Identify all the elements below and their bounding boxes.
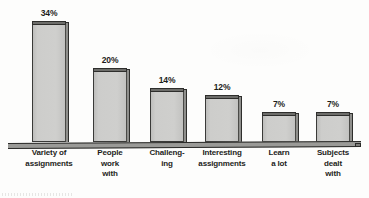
category-label-line: with: [296, 169, 369, 180]
axis-baseline-endcap: [355, 143, 361, 147]
category-label: Subjectsdealtwith: [296, 148, 369, 180]
bar-value-label: 34%: [32, 9, 66, 18]
bar-top-face: [32, 21, 66, 25]
bar-side-face: [350, 113, 353, 142]
bar: 7%: [316, 105, 350, 142]
bar-value-label: 20%: [93, 56, 127, 65]
scan-smudge: [200, 30, 320, 70]
bar-value-label: 7%: [316, 100, 350, 109]
category-label-line: Subjects: [296, 148, 369, 159]
category-label-line: with: [73, 169, 147, 180]
bar: 20%: [93, 61, 127, 142]
bar-chart: 34%20%14%12%7%7% Variety ofassignmentsPe…: [0, 0, 369, 198]
plot-area: 34%20%14%12%7%7%: [0, 0, 369, 150]
bar: 34%: [32, 14, 66, 142]
bar-side-face: [127, 69, 130, 142]
bar: 7%: [262, 105, 296, 142]
bar-side-face: [184, 89, 187, 142]
category-labels: Variety ofassignmentsPeopleworkwithChall…: [0, 148, 369, 194]
bar-front-face: [262, 115, 296, 142]
bar-front-face: [150, 91, 184, 142]
bar-side-face: [239, 96, 242, 142]
bar-top-face: [93, 68, 127, 72]
bar-top-face: [205, 95, 239, 99]
bar-front-face: [93, 71, 127, 142]
bar-top-face: [262, 112, 296, 116]
bar-top-face: [316, 112, 350, 116]
bar-value-label: 7%: [262, 100, 296, 109]
bar-side-face: [66, 22, 69, 142]
bar-top-face: [150, 88, 184, 92]
scan-artifact: [2, 193, 72, 196]
category-label-line: dealt: [296, 159, 369, 170]
bar: 12%: [205, 88, 239, 142]
bar-front-face: [316, 115, 350, 142]
bar-side-face: [296, 113, 299, 142]
bar-value-label: 14%: [150, 76, 184, 85]
bar-front-face: [32, 24, 66, 142]
bar-front-face: [205, 98, 239, 142]
bar-value-label: 12%: [205, 83, 239, 92]
bar: 14%: [150, 81, 184, 142]
